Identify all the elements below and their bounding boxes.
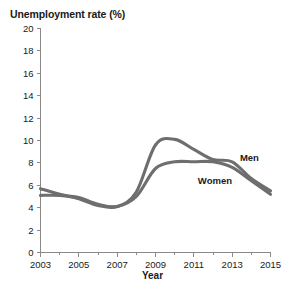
series-line-women: [41, 161, 271, 207]
chart-series-lines: [41, 139, 271, 208]
y-axis-ticks: 02468101214161820: [23, 23, 41, 258]
x-axis-tick-label: 2015: [260, 259, 281, 270]
x-axis-tick-label: 2005: [68, 259, 89, 270]
x-axis-tick-label: 2003: [30, 259, 51, 270]
y-axis-tick-label: 4: [28, 202, 33, 213]
y-axis-tick-label: 18: [23, 45, 34, 56]
chart-plot-area: 02468101214161820 2003200520072009201120…: [0, 0, 283, 288]
y-axis-tick-label: 0: [28, 247, 33, 258]
x-axis-tick-label: 2007: [107, 259, 128, 270]
x-axis-title: Year: [0, 270, 283, 281]
y-axis-tick-label: 10: [23, 135, 34, 146]
unemployment-rate-line-chart: Unemployment rate (%) 02468101214161820 …: [0, 0, 283, 288]
series-annotation-women: Women: [198, 175, 232, 186]
series-annotation-men: Men: [240, 152, 259, 163]
y-axis-tick-label: 14: [23, 90, 34, 101]
x-axis-title-text: Year: [142, 270, 163, 281]
chart-axes: [41, 29, 271, 253]
y-axis-tick-label: 6: [28, 180, 33, 191]
y-axis-tick-label: 20: [23, 23, 34, 34]
y-axis-tick-label: 2: [28, 225, 33, 236]
x-axis-ticks: 2003200520072009201120132015: [30, 253, 281, 270]
x-axis-tick-label: 2013: [222, 259, 243, 270]
x-axis-tick-label: 2009: [145, 259, 166, 270]
x-axis-tick-label: 2011: [184, 259, 204, 270]
y-axis-tick-label: 12: [23, 113, 34, 124]
y-axis-tick-label: 16: [23, 68, 34, 79]
y-axis-tick-label: 8: [28, 157, 33, 168]
